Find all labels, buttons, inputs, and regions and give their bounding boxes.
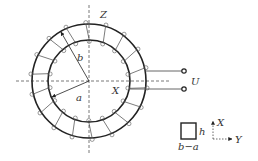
label-inset-x: X (216, 117, 225, 128)
terminal-top (182, 69, 186, 73)
radius-a-line (52, 81, 89, 97)
winding-segment (41, 101, 53, 112)
label-inset-y: Y (235, 134, 243, 145)
toroid-diagram: Z b a X U h b−a X Y (0, 0, 258, 161)
radius-b-line (61, 32, 89, 81)
terminal-bottom (182, 87, 186, 91)
cross-section-square (181, 123, 196, 139)
winding-segment (125, 50, 137, 61)
winding-segment (50, 39, 63, 49)
winding-segment (67, 29, 76, 43)
winding-segment (116, 35, 124, 49)
label-u: U (191, 76, 200, 87)
label-b: b (77, 52, 83, 63)
winding-segment (115, 113, 128, 123)
label-h: h (199, 126, 205, 137)
label-x: X (111, 85, 120, 96)
winding-segment (103, 26, 105, 42)
winding-segment (32, 74, 48, 75)
label-a: a (76, 92, 82, 103)
winding-segment (103, 120, 112, 134)
winding-segment (55, 112, 63, 126)
winding-segment (124, 102, 139, 107)
winding-segment (38, 55, 53, 60)
winding-segment (72, 119, 74, 135)
label-z: Z (99, 9, 108, 20)
winding-segment (129, 88, 145, 89)
winding-segment (33, 88, 48, 94)
winding-segment (129, 68, 144, 74)
label-b-minus-a: b−a (178, 141, 199, 152)
